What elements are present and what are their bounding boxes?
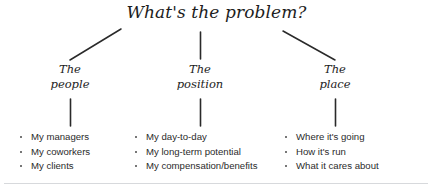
bullet-dot-icon — [20, 136, 22, 138]
list-item-label: My clients — [31, 160, 74, 171]
branch-heading-place-line2: place — [280, 77, 390, 92]
list-item: My compensation/benefits — [133, 159, 257, 174]
bullet-dot-icon — [135, 165, 137, 167]
branch-heading-position-line1: The — [145, 62, 255, 77]
list-item-label: What it cares about — [296, 160, 379, 171]
list-item: What it cares about — [283, 159, 379, 174]
bullet-list-people: My managers My coworkers My clients — [18, 130, 90, 174]
bullet-dot-icon — [135, 136, 137, 138]
problem-breakdown-diagram: What's the problem? The people The posit… — [0, 0, 433, 193]
list-item-label: How it's run — [296, 146, 346, 157]
list-item: My coworkers — [18, 145, 90, 160]
branch-heading-people-line2: people — [15, 77, 125, 92]
list-item-label: My compensation/benefits — [146, 160, 257, 171]
connector-title-to-people — [70, 29, 121, 60]
branch-heading-place-line1: The — [280, 62, 390, 77]
bullet-dot-icon — [285, 165, 287, 167]
list-item-label: My long-term potential — [146, 146, 241, 157]
list-item: My day-to-day — [133, 130, 257, 145]
branch-heading-position-line2: position — [145, 77, 255, 92]
bullet-dot-icon — [135, 151, 137, 153]
list-item-label: My day-to-day — [146, 131, 207, 142]
list-item-label: My coworkers — [31, 146, 90, 157]
branch-heading-place: The place — [280, 62, 390, 92]
connector-title-to-place — [283, 31, 335, 60]
list-item-label: My managers — [31, 131, 89, 142]
list-item-label: Where it's going — [296, 131, 365, 142]
bullet-list-place: Where it's going How it's run What it ca… — [283, 130, 379, 174]
branch-heading-people-line1: The — [15, 62, 125, 77]
bullet-dot-icon — [20, 151, 22, 153]
bottom-divider — [4, 183, 428, 184]
bullet-dot-icon — [285, 151, 287, 153]
list-item: My long-term potential — [133, 145, 257, 160]
list-item: My clients — [18, 159, 90, 174]
bullet-dot-icon — [285, 136, 287, 138]
bullet-dot-icon — [20, 165, 22, 167]
list-item: How it's run — [283, 145, 379, 160]
branch-heading-people: The people — [15, 62, 125, 92]
branch-heading-position: The position — [145, 62, 255, 92]
list-item: My managers — [18, 130, 90, 145]
list-item: Where it's going — [283, 130, 379, 145]
bullet-list-position: My day-to-day My long-term potential My … — [133, 130, 257, 174]
page-title: What's the problem? — [0, 2, 433, 22]
